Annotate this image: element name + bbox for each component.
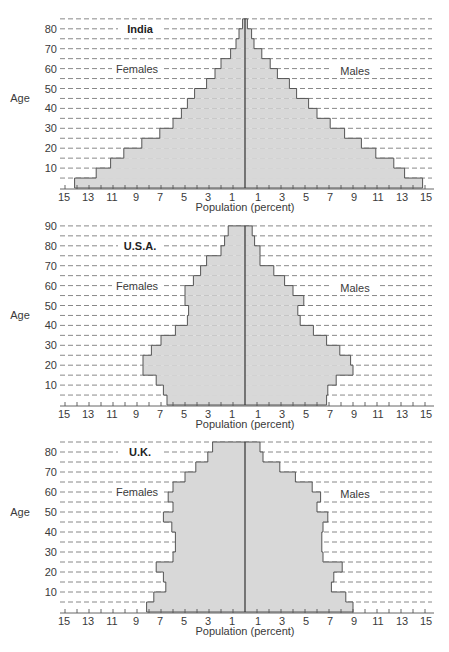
female-bar-65-70 xyxy=(201,266,245,276)
male-bar-50-55 xyxy=(245,502,317,512)
male-bar-65-70 xyxy=(245,266,274,276)
males-label: Males xyxy=(340,488,370,500)
y-tick-label: 70 xyxy=(45,260,57,272)
x-tick-label: 15 xyxy=(58,191,70,203)
male-bar-65-70 xyxy=(245,472,295,482)
pyramid-panel-0: 1020304050607080Age151311975311357911131… xyxy=(10,19,434,213)
female-bar-45-50 xyxy=(163,512,245,522)
population-pyramids-figure: 1020304050607080Age151311975311357911131… xyxy=(0,0,449,652)
male-bar-35-40 xyxy=(245,108,317,118)
female-bar-50-55 xyxy=(185,296,245,306)
male-bar-0-5 xyxy=(245,178,423,188)
y-tick-label: 50 xyxy=(45,506,57,518)
female-bar-60-65 xyxy=(173,482,245,492)
female-bar-45-50 xyxy=(195,89,245,99)
y-tick-label: 40 xyxy=(45,319,57,331)
y-tick-label: 50 xyxy=(45,300,57,312)
male-bar-35-40 xyxy=(245,325,313,335)
x-tick-label: 13 xyxy=(82,191,94,203)
x-tick-label: 5 xyxy=(181,615,187,627)
female-bar-60-65 xyxy=(221,59,245,69)
x-tick-label: 5 xyxy=(181,408,187,420)
female-bar-55-60 xyxy=(185,286,245,296)
female-bar-20-25 xyxy=(143,355,245,365)
female-bar-30-35 xyxy=(161,335,245,345)
female-bar-15-20 xyxy=(124,148,245,158)
females-label: Females xyxy=(116,280,159,292)
x-tick-label: 7 xyxy=(157,615,163,627)
female-bar-20-25 xyxy=(156,562,245,572)
pyramid-panel-1: 102030405060708090Age1513119753113579111… xyxy=(10,220,434,430)
female-bar-20-25 xyxy=(142,138,245,148)
male-bar-60-65 xyxy=(245,276,285,286)
male-bar-75-80 xyxy=(245,246,260,256)
female-bar-40-45 xyxy=(187,315,245,325)
male-bar-15-20 xyxy=(245,572,334,582)
y-tick-label: 30 xyxy=(45,339,57,351)
x-tick-label: 5 xyxy=(303,408,309,420)
female-bar-35-40 xyxy=(175,532,245,542)
x-tick-label: 7 xyxy=(157,408,163,420)
female-bar-10-15 xyxy=(156,375,245,385)
x-tick-label: 15 xyxy=(420,615,432,627)
female-bar-5-10 xyxy=(96,168,245,178)
y-tick-label: 30 xyxy=(45,122,57,134)
female-bar-5-10 xyxy=(154,592,245,602)
x-tick-label: 7 xyxy=(327,191,333,203)
male-bar-70-75 xyxy=(245,39,254,49)
female-bar-45-50 xyxy=(189,306,245,316)
male-bar-10-15 xyxy=(245,158,394,168)
male-bar-60-65 xyxy=(245,59,270,69)
female-bar-25-30 xyxy=(151,345,245,355)
x-tick-label: 13 xyxy=(396,191,408,203)
y-tick-label: 20 xyxy=(45,142,57,154)
female-bar-70-75 xyxy=(196,462,245,472)
male-bar-55-60 xyxy=(245,286,293,296)
y-tick-label: 10 xyxy=(45,379,57,391)
male-bar-10-15 xyxy=(245,375,336,385)
x-tick-label: 7 xyxy=(327,615,333,627)
female-bar-60-65 xyxy=(193,276,245,286)
y-tick-label: 40 xyxy=(45,102,57,114)
y-tick-label: 60 xyxy=(45,280,57,292)
female-bar-0-5 xyxy=(75,178,245,188)
male-bar-50-55 xyxy=(245,79,289,89)
x-tick-label: 13 xyxy=(82,408,94,420)
y-axis-title: Age xyxy=(10,506,30,518)
male-bar-45-50 xyxy=(245,89,297,99)
female-bar-50-55 xyxy=(207,79,245,89)
male-bar-55-60 xyxy=(245,492,321,502)
x-tick-label: 13 xyxy=(396,615,408,627)
female-bar-5-10 xyxy=(163,385,245,395)
x-tick-label: 15 xyxy=(420,408,432,420)
male-bar-20-25 xyxy=(245,138,361,148)
male-bar-45-50 xyxy=(245,512,328,522)
male-bar-40-45 xyxy=(245,315,300,325)
x-axis-title: Population (percent) xyxy=(195,625,294,637)
y-tick-label: 30 xyxy=(45,546,57,558)
y-tick-label: 40 xyxy=(45,526,57,538)
female-bar-25-30 xyxy=(160,128,245,138)
y-axis-title: Age xyxy=(10,309,30,321)
males-label: Males xyxy=(340,282,370,294)
x-tick-label: 11 xyxy=(106,615,117,627)
y-tick-label: 70 xyxy=(45,466,57,478)
y-tick-label: 60 xyxy=(45,63,57,75)
male-bar-5-10 xyxy=(245,592,346,602)
x-tick-label: 11 xyxy=(106,191,117,203)
pyramid-panel-2: 1020304050607080Age151311975311357911131… xyxy=(10,442,434,637)
males-label: Males xyxy=(340,65,370,77)
y-tick-label: 70 xyxy=(45,43,57,55)
x-tick-label: 9 xyxy=(133,615,139,627)
y-axis-title: Age xyxy=(10,92,30,104)
male-bar-20-25 xyxy=(245,355,351,365)
male-bar-25-30 xyxy=(245,128,345,138)
females-label: Females xyxy=(116,486,159,498)
female-bar-55-60 xyxy=(168,492,245,502)
panel-title: U.K. xyxy=(129,446,151,458)
y-tick-label: 90 xyxy=(45,220,57,232)
male-bar-60-65 xyxy=(245,482,312,492)
female-bar-35-40 xyxy=(175,325,245,335)
x-tick-label: 15 xyxy=(420,191,432,203)
male-bar-20-25 xyxy=(245,562,342,572)
